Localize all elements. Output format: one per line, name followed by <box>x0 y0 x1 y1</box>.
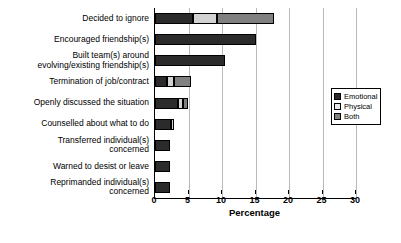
category-label: Counselled about what to do <box>0 119 149 129</box>
bar-segment-emotional <box>155 98 178 109</box>
category-label: Encouraged friendship(s) <box>0 35 149 45</box>
x-tick-label: 30 <box>343 195 367 205</box>
legend-label-emotional: Emotional <box>344 93 377 101</box>
x-tick <box>255 190 256 194</box>
x-tick <box>355 190 356 194</box>
bar-segment-emotional <box>155 55 225 66</box>
bar-segment-physical <box>193 13 216 24</box>
category-axis-labels: Decided to ignoreEncouraged friendship(s… <box>0 8 152 198</box>
legend-swatch-physical <box>334 103 341 110</box>
x-tick-label: 5 <box>176 195 200 205</box>
plot-area <box>154 8 356 199</box>
x-tick <box>221 190 222 194</box>
bar-segment-emotional <box>155 13 193 24</box>
legend-label-physical: Physical <box>344 103 372 111</box>
bar-segment-physical <box>171 119 174 130</box>
bar-chart: Decided to ignoreEncouraged friendship(s… <box>0 0 401 243</box>
legend-swatch-both <box>334 113 341 120</box>
x-tick-label: 15 <box>243 195 267 205</box>
category-label: Transferred individual(s)concerned <box>0 136 149 155</box>
category-label: Decided to ignore <box>0 14 149 24</box>
x-tick <box>322 190 323 194</box>
legend-swatch-emotional <box>334 93 341 100</box>
bar-segment-emotional <box>155 182 170 193</box>
bar-segment-emotional <box>155 34 256 45</box>
bar-segment-emotional <box>155 76 167 87</box>
bar-segment-physical <box>167 76 174 87</box>
gridline <box>323 8 324 198</box>
bar-segment-emotional <box>155 119 171 130</box>
x-tick <box>188 190 189 194</box>
bar-segment-both <box>183 98 188 109</box>
category-label: Warned to desist or leave <box>0 162 149 172</box>
bar-segment-both <box>217 13 275 24</box>
x-tick-label: 0 <box>142 195 166 205</box>
legend-label-both: Both <box>344 113 359 121</box>
x-tick <box>154 190 155 194</box>
legend-item-physical: Physical <box>334 102 377 111</box>
bar-segment-both <box>174 76 191 87</box>
category-label: Openly discussed the situation <box>0 98 149 108</box>
chart-legend: Emotional Physical Both <box>331 88 381 125</box>
x-tick-label: 10 <box>209 195 233 205</box>
category-label: Reprimanded individual(s)concerned <box>0 178 149 197</box>
x-tick <box>288 190 289 194</box>
category-label: Built team(s) aroundevolving/existing fr… <box>0 51 149 70</box>
x-axis-title: Percentage <box>154 207 355 218</box>
category-label: Termination of job/contract <box>0 77 149 87</box>
gridline <box>289 8 290 198</box>
bar-segment-emotional <box>155 161 170 172</box>
legend-item-emotional: Emotional <box>334 92 377 101</box>
gridline <box>256 8 257 198</box>
bar-segment-emotional <box>155 140 170 151</box>
x-tick-label: 20 <box>276 195 300 205</box>
x-tick-label: 25 <box>310 195 334 205</box>
legend-item-both: Both <box>334 112 377 121</box>
